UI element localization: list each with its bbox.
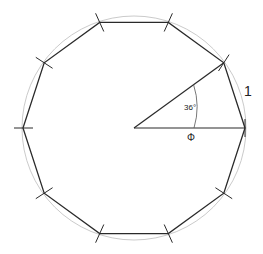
side-length-label: 1 — [244, 83, 252, 99]
radius-angled — [134, 63, 224, 128]
radius-phi-label: Φ — [187, 132, 195, 143]
angle-label: 36° — [184, 103, 196, 112]
decagon-diagram: 36° Φ 1 — [0, 0, 263, 254]
